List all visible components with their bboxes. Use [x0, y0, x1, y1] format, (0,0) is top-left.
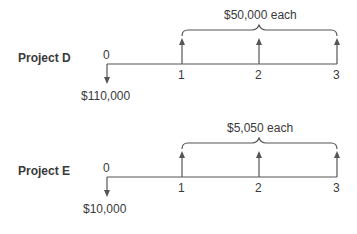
period-label-2: 2 — [255, 181, 262, 195]
period-label-0: 0 — [103, 48, 110, 62]
brace — [182, 25, 337, 36]
project-label: Project D — [18, 51, 71, 65]
arrow-up-icon — [334, 151, 340, 158]
arrow-up-icon — [256, 38, 262, 45]
period-label-2: 2 — [255, 68, 262, 82]
arrow-down-icon — [104, 190, 110, 197]
arrow-up-icon — [179, 38, 185, 45]
period-label-1: 1 — [178, 181, 185, 195]
inflow-label: $50,000 each — [224, 8, 297, 22]
inflow-label: $5,050 each — [227, 121, 293, 135]
outflow-label: $10,000 — [83, 202, 127, 216]
arrow-up-icon — [256, 151, 262, 158]
period-label-1: 1 — [178, 68, 185, 82]
period-label-3: 3 — [333, 181, 340, 195]
period-label-3: 3 — [333, 68, 340, 82]
project-label: Project E — [18, 164, 70, 178]
timeline-project-e: Project E 0 $10,000 1 2 3 $5,050 each — [18, 121, 340, 216]
outflow-label: $110,000 — [81, 89, 130, 103]
arrow-up-icon — [334, 38, 340, 45]
brace — [182, 138, 337, 149]
arrow-down-icon — [104, 77, 110, 84]
arrow-up-icon — [179, 151, 185, 158]
cash-flow-diagrams: Project D 0 $110,000 1 2 3 $50,000 each … — [0, 0, 357, 234]
period-label-0: 0 — [103, 161, 110, 175]
timeline-project-d: Project D 0 $110,000 1 2 3 $50,000 each — [18, 8, 340, 103]
